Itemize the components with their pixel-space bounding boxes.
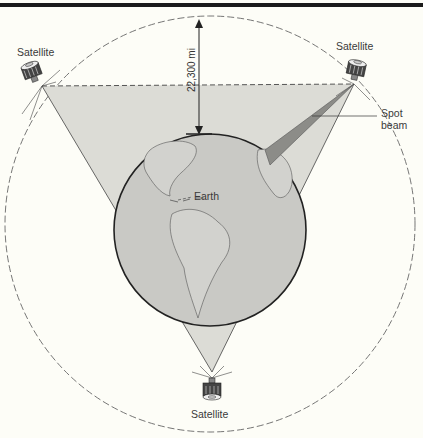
earth-globe <box>114 134 306 326</box>
distance-label: 22,300 mi <box>186 48 197 92</box>
satellite-bottom-label: Satellite <box>191 409 228 421</box>
spot-beam-label-line1: Spot <box>381 108 403 120</box>
satellite-right-label: Satellite <box>336 41 373 53</box>
satellite-coverage-diagram <box>0 0 423 438</box>
satellite-bottom-icon <box>203 378 221 400</box>
satellite-right-icon <box>345 58 367 81</box>
satellite-left-icon <box>20 60 44 85</box>
earth-label: Earth <box>194 191 219 203</box>
satellite-left-label: Satellite <box>17 47 54 59</box>
spot-beam-label-line2: beam <box>381 120 407 132</box>
